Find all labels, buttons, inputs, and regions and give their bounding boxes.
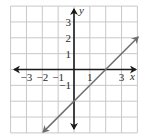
y-tick-label: 2	[66, 32, 72, 44]
coordinate-graph: −3−2−113321−1 x y	[0, 0, 146, 138]
y-tick-label: −1	[59, 79, 71, 91]
x-tick-label: 3	[119, 71, 125, 83]
y-tick-label: 1	[66, 48, 72, 60]
x-tick-label: −2	[36, 71, 48, 83]
x-tick-label: −3	[21, 71, 33, 83]
line-segment	[43, 85, 91, 133]
x-axis-label: x	[129, 70, 135, 82]
y-axis-label: y	[78, 4, 84, 16]
y-tick-label: 3	[66, 16, 72, 28]
line-y-equals-x-minus-2	[43, 37, 138, 132]
axes	[14, 9, 136, 129]
x-tick-label: 1	[87, 71, 93, 83]
